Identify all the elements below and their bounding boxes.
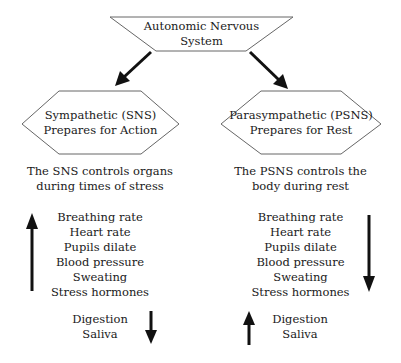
list-item: Stress hormones xyxy=(50,285,150,300)
psns-decrease-down-arrow-icon xyxy=(363,215,375,292)
psns-desc-line1: The PSNS controls the xyxy=(200,164,401,179)
list-item: Pupils dilate xyxy=(250,240,351,255)
psns-decrease-list: Breathing rate Heart rate Pupils dilate … xyxy=(250,210,351,300)
list-item: Stress hormones xyxy=(250,285,351,300)
list-item: Digestion xyxy=(270,312,330,327)
sns-desc-line1: The SNS controls organs xyxy=(0,164,200,179)
sns-desc-line2: during times of stress xyxy=(0,179,200,194)
psns-title-line2: Prepares for Rest xyxy=(221,123,381,138)
list-item: Blood pressure xyxy=(250,255,351,270)
root-title-line1: Autonomic Nervous xyxy=(110,19,293,34)
sns-title-line2: Prepares for Action xyxy=(22,123,179,138)
psns-increase-list: Digestion Saliva xyxy=(270,312,330,342)
arrow-to-sns-icon xyxy=(115,52,151,86)
sns-increase-list: Breathing rate Heart rate Pupils dilate … xyxy=(50,210,150,300)
arrow-to-psns-icon xyxy=(250,52,288,89)
sns-title-line1: Sympathetic (SNS) xyxy=(22,108,179,123)
sns-increase-up-arrow-icon xyxy=(26,213,38,291)
list-item: Heart rate xyxy=(250,225,351,240)
list-item: Digestion xyxy=(70,312,130,327)
psns-increase-up-arrow-icon xyxy=(243,311,255,345)
list-item: Blood pressure xyxy=(50,255,150,270)
psns-title: Parasympathetic (PSNS) Prepares for Rest xyxy=(221,108,381,138)
psns-desc-line2: body during rest xyxy=(200,179,401,194)
list-item: Pupils dilate xyxy=(50,240,150,255)
list-item: Sweating xyxy=(50,270,150,285)
list-item: Breathing rate xyxy=(50,210,150,225)
sns-description: The SNS controls organs during times of … xyxy=(0,164,200,194)
root-title: Autonomic Nervous System xyxy=(110,19,293,49)
list-item: Breathing rate xyxy=(250,210,351,225)
list-item: Sweating xyxy=(250,270,351,285)
list-item: Saliva xyxy=(70,327,130,342)
list-item: Heart rate xyxy=(50,225,150,240)
sns-decrease-down-arrow-icon xyxy=(145,311,157,344)
psns-description: The PSNS controls the body during rest xyxy=(200,164,401,194)
psns-title-line1: Parasympathetic (PSNS) xyxy=(221,108,381,123)
root-title-line2: System xyxy=(110,34,293,49)
list-item: Saliva xyxy=(270,327,330,342)
sns-title: Sympathetic (SNS) Prepares for Action xyxy=(22,108,179,138)
sns-decrease-list: Digestion Saliva xyxy=(70,312,130,342)
